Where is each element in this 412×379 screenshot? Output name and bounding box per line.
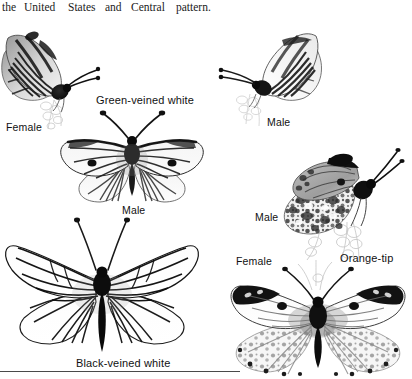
header-word-4: and <box>105 1 122 13</box>
figure-orange-tip-male-side <box>255 138 411 264</box>
plate-page: the United States and Central pattern. <box>0 0 412 379</box>
sex-label-orange-tip-female: Female <box>236 255 272 267</box>
species-label-green-veined-white: Green-veined white <box>96 94 194 106</box>
figure-green-veined-white-male-side <box>206 16 328 132</box>
species-label-orange-tip: Orange-tip <box>340 252 393 264</box>
header-word-5: Central <box>131 1 165 13</box>
header-word-2: United <box>24 1 55 13</box>
header-word-3: States <box>68 1 95 13</box>
species-label-black-veined-white: Black-veined white <box>76 357 170 369</box>
page-divider-rule <box>0 371 240 372</box>
sex-label-green-veined-white-female: Female <box>6 121 42 133</box>
sex-label-green-veined-white-male-side: Male <box>267 116 290 128</box>
header-word-1: the <box>2 1 16 13</box>
figure-black-veined-white-spread <box>2 212 202 358</box>
header-word-6: pattern. <box>176 1 211 13</box>
figure-green-veined-white-male-spread <box>48 108 216 212</box>
sex-label-green-veined-white-male-spread: Male <box>122 204 145 216</box>
figure-orange-tip-female-spread <box>226 264 412 379</box>
sex-label-orange-tip-male: Male <box>255 211 278 223</box>
